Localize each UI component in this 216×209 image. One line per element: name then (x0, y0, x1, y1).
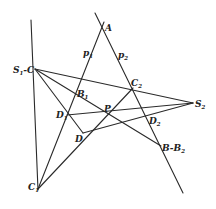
line-d1-s2 (67, 103, 193, 115)
label-p1: p1 (83, 48, 93, 59)
label-b1: B1 (76, 89, 88, 100)
label-p2: p2 (118, 50, 128, 61)
label-c2: C2 (131, 78, 142, 89)
line-c1-c2 (38, 88, 133, 189)
label-d2: D2 (148, 116, 161, 127)
label-b-b2: B-B2 (161, 143, 185, 154)
line-s1c-d (35, 69, 83, 133)
label-s1c: S1-C (13, 65, 35, 76)
label-p: P (103, 104, 111, 114)
label-s2: S2 (195, 99, 206, 110)
label-d: D (74, 134, 83, 144)
label-d1: D1 (55, 110, 68, 121)
line-p2 (95, 13, 183, 193)
line-s1c-c1 (31, 20, 38, 190)
label-a: A (104, 23, 112, 33)
line-s1c-s2 (35, 69, 193, 103)
line-d-s2 (83, 103, 193, 133)
geometry-diagram: A p1 p2 S1-C C2 S2 B1 P D1 D2 D B-B2 C1 (0, 0, 216, 209)
